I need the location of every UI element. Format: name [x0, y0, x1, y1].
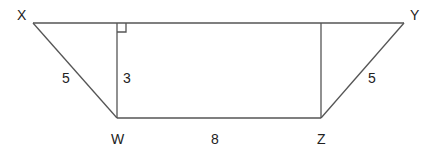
edge-zy: [321, 23, 404, 118]
vertex-label-w: W: [111, 131, 125, 147]
diagram-svg: X Y W Z 5 3 8 5: [0, 0, 432, 156]
edge-label-height: 3: [123, 70, 131, 86]
edge-xw: [33, 23, 117, 118]
edge-label-xw: 5: [62, 70, 70, 86]
right-angle-marker: [117, 23, 126, 32]
vertex-label-x: X: [17, 7, 27, 23]
edge-label-zy: 5: [368, 70, 376, 86]
vertex-label-y: Y: [410, 7, 420, 23]
trapezoid-diagram: X Y W Z 5 3 8 5: [0, 0, 432, 156]
edge-label-wz: 8: [211, 131, 219, 147]
vertex-label-z: Z: [317, 131, 326, 147]
